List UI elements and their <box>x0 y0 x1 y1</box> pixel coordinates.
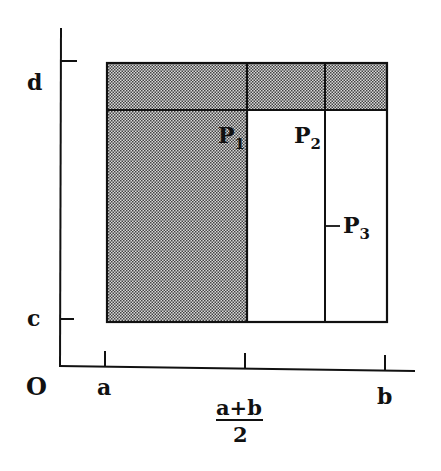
region-label-p3: P3 <box>343 212 370 243</box>
y-label-c: c <box>27 305 40 331</box>
x-axis <box>59 366 415 371</box>
diagram-canvas: d c O a a+b 2 b P1 P2 P3 <box>0 0 441 471</box>
p1-subscript: 1 <box>235 135 245 153</box>
x-label-b: b <box>377 383 392 409</box>
p1-letter: P <box>218 122 235 148</box>
x-label-a: a <box>97 374 111 400</box>
p2-letter: P <box>294 122 311 148</box>
y-axis <box>60 28 61 366</box>
x-label-mid-numerator: a+b <box>216 395 262 420</box>
y-label-d: d <box>27 69 42 95</box>
x-label-mid-denominator: 2 <box>233 422 248 447</box>
p2-subscript: 2 <box>311 135 321 153</box>
p3-letter: P <box>343 212 360 238</box>
p3-subscript: 3 <box>360 225 370 243</box>
origin-label: O <box>26 372 47 401</box>
region-label-p2: P2 <box>294 122 321 153</box>
